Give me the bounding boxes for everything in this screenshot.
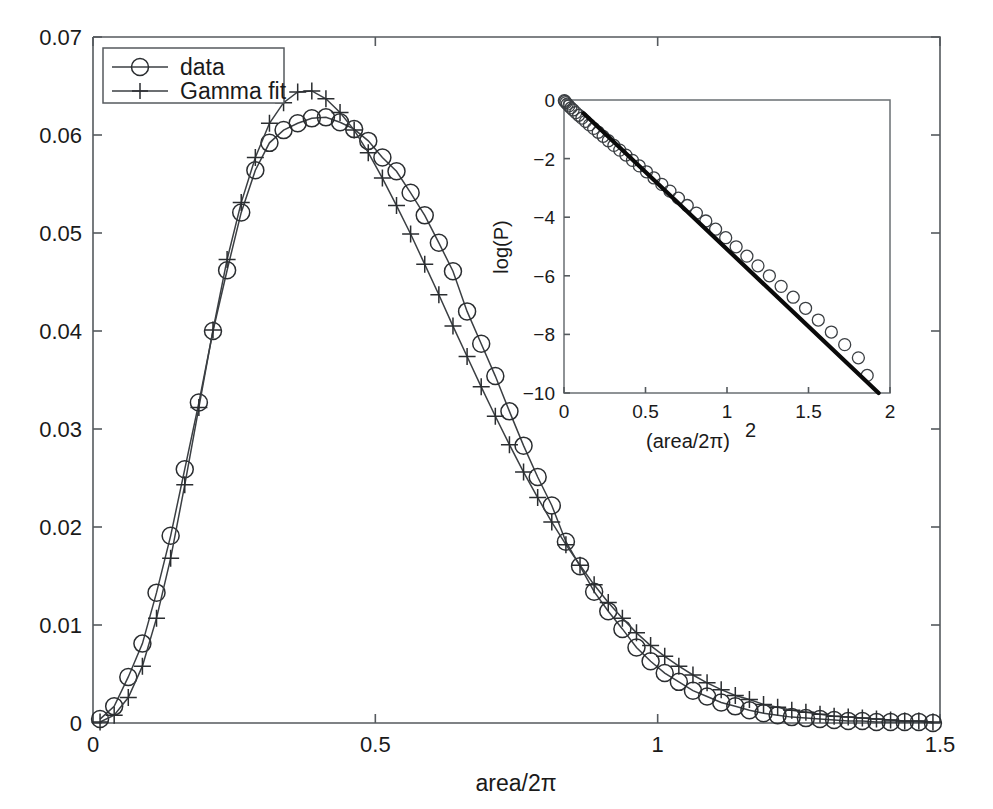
main-x-tick-label: 0	[87, 732, 99, 757]
main-x-tick-label: 1.5	[925, 732, 956, 757]
inset-x-tick-label: 2	[885, 401, 896, 422]
main-x-tick-label: 1	[652, 732, 664, 757]
main-y-tick-label: 0	[70, 711, 82, 736]
main-x-tick-label: 0.5	[360, 732, 391, 757]
inset-y-tick-label: −10	[523, 383, 555, 404]
inset-y-tick-label: −6	[533, 266, 555, 287]
inset-x-tick-label: 0	[559, 401, 570, 422]
main-y-tick-label: 0.05	[39, 221, 82, 246]
inset-y-tick-label: 0	[544, 90, 555, 111]
inset-x-tick-label: 0.5	[632, 401, 658, 422]
inset-x-axis-label-exponent: 2	[745, 419, 756, 441]
inset-y-tick-label: −8	[533, 324, 555, 345]
legend[interactable]: data Gamma fit	[103, 48, 287, 104]
main-y-tick-label: 0.06	[39, 123, 82, 148]
main-y-tick-label: 0.03	[39, 417, 82, 442]
legend-label-gamma-fit: Gamma fit	[180, 78, 287, 104]
main-y-tick-label: 0.04	[39, 319, 82, 344]
inset-y-tick-label: −2	[533, 149, 555, 170]
inset-x-axis-label-base: (area/2π)	[646, 430, 730, 452]
inset-x-tick-label: 1.5	[795, 401, 821, 422]
inset-y-tick-label: −4	[533, 207, 555, 228]
legend-label-data: data	[180, 54, 225, 80]
plot-canvas: 00.511.5 00.010.020.030.040.050.060.07 a…	[0, 0, 993, 809]
main-y-tick-label: 0.07	[39, 25, 82, 50]
main-x-axis-label: area/2π	[475, 770, 556, 796]
main-y-tick-label: 0.02	[39, 515, 82, 540]
main-y-tick-label: 0.01	[39, 613, 82, 638]
inset-x-tick-label: 1	[722, 401, 733, 422]
figure-container: 00.511.5 00.010.020.030.040.050.060.07 a…	[0, 0, 993, 809]
inset-y-axis-label: log(P)	[490, 220, 512, 273]
